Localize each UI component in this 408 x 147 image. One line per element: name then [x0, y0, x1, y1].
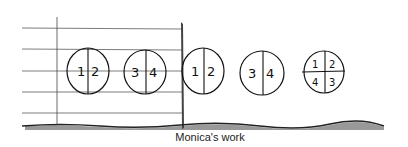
label: 1 — [191, 64, 199, 79]
circle-quarters: 1 2 4 3 — [302, 51, 345, 93]
ruled-lines — [22, 28, 182, 113]
label: 2 — [207, 64, 215, 79]
circle-halves-3: 1 2 — [182, 48, 224, 94]
label: 3 — [329, 77, 335, 88]
label: 4 — [312, 77, 318, 88]
label: 2 — [329, 59, 335, 70]
notebook-paper: 1 2 3 4 1 2 3 4 1 2 4 3 — [0, 0, 408, 147]
circle-halves-4: 3 4 — [240, 51, 284, 95]
label: 1 — [312, 59, 318, 70]
circle-halves-2: 3 4 — [124, 50, 166, 94]
label: 4 — [266, 66, 274, 81]
figure-caption: Monica's work — [0, 131, 408, 143]
label: 4 — [149, 65, 157, 80]
label: 2 — [91, 64, 99, 79]
label: 1 — [77, 64, 85, 79]
label: 3 — [248, 66, 256, 81]
label: 3 — [131, 65, 139, 80]
